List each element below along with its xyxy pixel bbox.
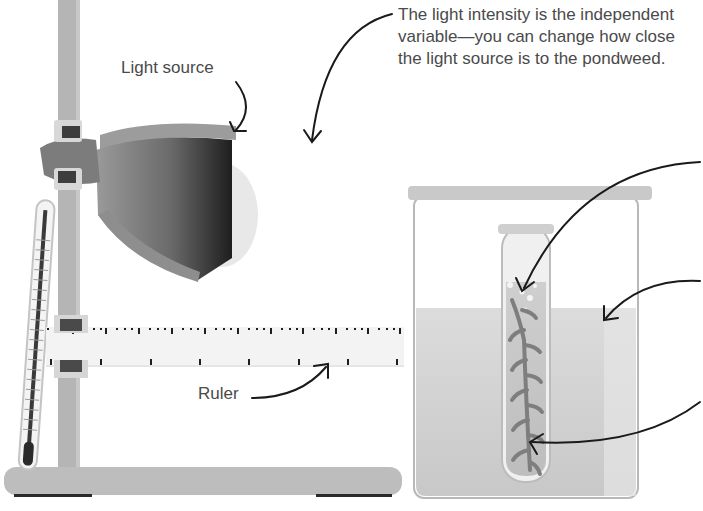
apparatus-illustration: [0, 0, 703, 511]
light-source-arrow: [236, 82, 246, 130]
ruler-arrow: [252, 367, 326, 398]
diagram-stage: The light intensity is the independent v…: [0, 0, 703, 511]
independent-variable-note: The light intensity is the independent v…: [398, 4, 698, 70]
ruler: [46, 315, 404, 378]
intensity-arrow: [312, 14, 392, 140]
ruler-label: Ruler: [198, 383, 239, 405]
light-source-label: Light source: [121, 57, 214, 79]
